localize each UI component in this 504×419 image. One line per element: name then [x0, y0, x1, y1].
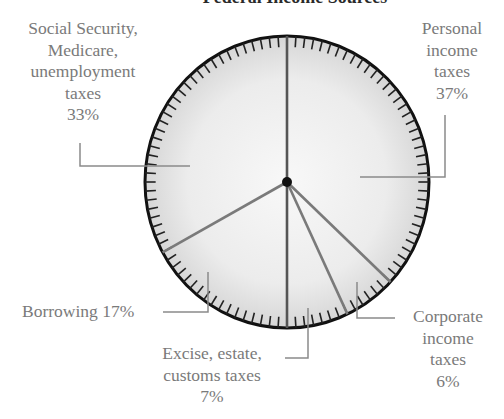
label-borrowing: Borrowing 17% [22, 301, 134, 323]
label-line: Corporate [398, 306, 498, 328]
label-personal-income: Personal income taxes 37% [402, 18, 502, 104]
label-line: Personal [402, 18, 502, 40]
label-percent: 7% [147, 386, 277, 408]
label-line: income [398, 328, 498, 350]
label-corporate-income: Corporate income taxes 6% [398, 306, 498, 392]
label-line: Excise, estate, [147, 343, 277, 365]
label-line: taxes [398, 349, 498, 371]
label-social-security: Social Security, Medicare, unemployment … [8, 18, 158, 126]
label-excise: Excise, estate, customs taxes 7% [147, 343, 277, 408]
label-line: Medicare, [8, 40, 158, 62]
label-line: taxes [402, 61, 502, 83]
label-percent: 33% [8, 104, 158, 126]
label-percent: 37% [402, 83, 502, 105]
label-line: taxes [8, 83, 158, 105]
label-line: income [402, 40, 502, 62]
label-line: Social Security, [8, 18, 158, 40]
label-line: unemployment [8, 61, 158, 83]
label-line: Borrowing 17% [22, 301, 134, 321]
label-line: customs taxes [147, 365, 277, 387]
center-dot [282, 177, 292, 187]
label-percent: 6% [398, 371, 498, 393]
